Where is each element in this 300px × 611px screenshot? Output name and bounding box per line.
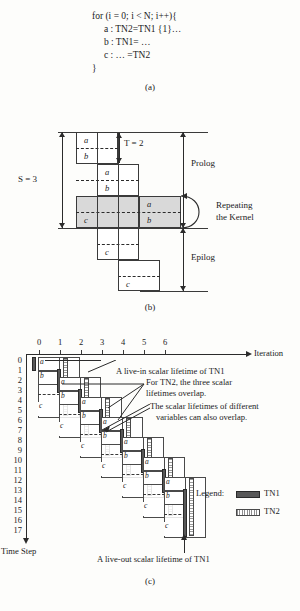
- x-tick-4: [123, 350, 124, 354]
- panel-c-lifetimes: Iteration 0 1 2 3 4 5 6 Time Step 0 1 2 …: [0, 330, 300, 611]
- annotation-live-in: A live-in scalar lifetime of TN1: [116, 366, 224, 377]
- time-step-label-2: 2: [8, 375, 22, 385]
- s-measure-arrow-top: [59, 132, 65, 137]
- panel-a-code: for (i = 0; i < N; i++){ a : TN2=TN1 {1}…: [0, 10, 300, 92]
- slot-c-iter0: c: [38, 402, 60, 416]
- iteration-label-1: 1: [54, 337, 66, 347]
- annotation-tn2-overlap-line2: lifetimes overlap.: [146, 388, 206, 399]
- time-step-label-4: 4: [8, 395, 22, 405]
- tn1-bar-iter6: [183, 489, 187, 537]
- op-label-b0: b: [84, 151, 88, 161]
- bottom-rule: [140, 291, 208, 292]
- code-line-0: for (i = 0; i < N; i++){: [92, 10, 300, 23]
- code-line-3: c : … =TN2: [92, 49, 300, 62]
- x-axis: [26, 354, 248, 355]
- epilog-arrow-bottom: [180, 286, 186, 291]
- x-tick-6: [165, 350, 166, 354]
- slot-c-iter2: c: [80, 442, 102, 456]
- time-step-label-16: 16: [4, 515, 22, 525]
- iteration-label-5: 5: [138, 337, 150, 347]
- time-step-label-10: 10: [4, 455, 22, 465]
- caption-a: (a): [0, 82, 300, 92]
- time-step-label-7: 7: [8, 425, 22, 435]
- op-label-b1: b: [105, 183, 109, 193]
- iteration-label-0: 0: [33, 337, 45, 347]
- legend-title: Legend:: [196, 488, 224, 499]
- epilog-label: Epilog: [191, 252, 215, 262]
- x-axis-arrow: [246, 351, 252, 357]
- annotation-live-out: A live-out scalar lifetime of TN1: [97, 554, 210, 565]
- iteration-label-4: 4: [117, 337, 129, 347]
- x-tick-3: [102, 350, 103, 354]
- annotation-diff-vars-line2: variables can also overlap.: [156, 412, 247, 423]
- code-line-2: b : TN1= …: [92, 36, 300, 49]
- caption-b: (b): [0, 302, 300, 312]
- annotation-tn2-overlap-line1: For TN2, the three scalar: [146, 377, 232, 388]
- tn2-bar-iter6: [189, 478, 194, 536]
- annotation-diff-vars-line1: The scalar lifetimes of different: [150, 401, 259, 412]
- dash-iter4: [122, 474, 144, 475]
- time-step-label-11: 11: [4, 465, 22, 475]
- panel-b-schedule: a b a b c a b c c S = 3 T = 2 Prolog Rep…: [0, 124, 300, 324]
- s-label: S = 3: [18, 174, 37, 184]
- dash-sep-4: [118, 276, 160, 277]
- time-step-label-13: 13: [4, 485, 22, 495]
- time-step-label-14: 14: [4, 495, 22, 505]
- t-measure-arrow-top: [116, 133, 122, 138]
- slot-c-iter5: c: [143, 502, 165, 516]
- prolog-arrow-top: [180, 132, 186, 137]
- x-axis-label: Iteration: [254, 348, 283, 359]
- time-step-label-15: 15: [4, 505, 22, 515]
- guide-line-left: [97, 132, 98, 260]
- slot-c-iter4: c: [122, 482, 144, 496]
- legend-swatch-tn2: [236, 509, 260, 516]
- t-label: T = 2: [124, 138, 143, 148]
- leader-live-out-arrow: [181, 534, 187, 540]
- op-label-a1: a: [105, 167, 109, 177]
- legend-swatch-tn1: [236, 491, 260, 498]
- time-step-label-3: 3: [8, 385, 22, 395]
- slot-c-iter3: c: [101, 462, 123, 476]
- schedule-diagram: a b a b c a b c c S = 3 T = 2 Prolog Rep…: [0, 124, 300, 302]
- iteration-label-2: 2: [75, 337, 87, 347]
- s-measure-line: [62, 132, 63, 228]
- op-label-c4: c: [126, 279, 130, 289]
- time-step-label-6: 6: [8, 415, 22, 425]
- dash-iter0: [38, 394, 60, 395]
- dash-iter2: [80, 434, 102, 435]
- y-axis-label: Time Step: [1, 546, 36, 557]
- kernel-loop-arc-icon: [179, 192, 219, 232]
- op-label-c3: c: [105, 247, 109, 257]
- time-step-label-5: 5: [8, 405, 22, 415]
- dash-sep-2: [76, 212, 181, 213]
- x-tick-2: [81, 350, 82, 354]
- iteration-label-6: 6: [159, 337, 171, 347]
- lifetime-diagram: Iteration 0 1 2 3 4 5 6 Time Step 0 1 2 …: [0, 330, 300, 575]
- op-label-c2: c: [84, 215, 88, 225]
- kernel-label-line2: the Kernel: [216, 212, 254, 222]
- leader-live-in-diagonal-icon: [88, 360, 118, 374]
- dash-iter3: [101, 454, 123, 455]
- time-step-label-1: 1: [8, 365, 22, 375]
- slot-c-iter1: c: [59, 422, 81, 436]
- legend-entry-tn2: TN2: [264, 506, 280, 517]
- op-label-a0: a: [84, 135, 88, 145]
- s-measure-arrow-bottom: [59, 223, 65, 228]
- code-listing: for (i = 0; i < N; i++){ a : TN2=TN1 {1}…: [0, 10, 300, 75]
- x-tick-0: [39, 350, 40, 354]
- tn1-livein-bar: [32, 357, 36, 371]
- iteration-label-3: 3: [96, 337, 108, 347]
- time-step-label-17: 17: [4, 525, 22, 535]
- time-step-label-8: 8: [8, 435, 22, 445]
- dash-iter5: [143, 494, 165, 495]
- y-axis-arrow: [23, 538, 29, 544]
- x-tick-5: [144, 350, 145, 354]
- t-measure-arrow-bottom: [116, 158, 122, 163]
- epilog-measure-line: [183, 228, 184, 291]
- time-step-label-0: 0: [8, 355, 22, 365]
- y-axis: [26, 354, 27, 540]
- time-step-label-12: 12: [4, 475, 22, 485]
- time-step-label-9: 9: [8, 445, 22, 455]
- kernel-label-line1: Repeating: [216, 200, 253, 210]
- caption-c: (c): [0, 576, 300, 586]
